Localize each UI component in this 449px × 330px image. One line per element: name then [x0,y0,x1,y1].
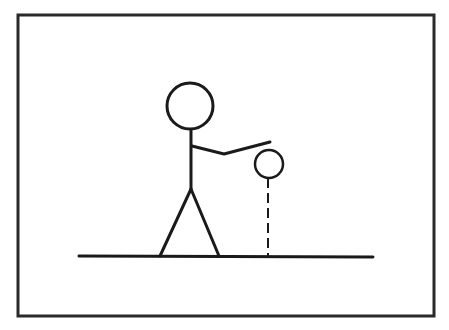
stick-figure [160,83,270,256]
stick-figure-right-leg [191,189,219,256]
stick-figure-head [167,83,213,129]
ground-line [79,256,373,257]
diagram-canvas [0,0,449,330]
diagram-frame [18,15,434,316]
ball [255,150,283,178]
stick-figure-left-leg [160,189,191,256]
stick-figure-arm [192,142,270,154]
